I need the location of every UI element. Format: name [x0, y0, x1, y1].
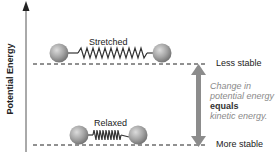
- stretched-left-ball: [50, 44, 69, 63]
- less-stable-label: Less stable: [216, 58, 262, 68]
- y-axis: [23, 1, 30, 152]
- stretched-right-ball: [153, 44, 172, 63]
- note-line-4: kinetic energy.: [210, 111, 267, 121]
- relaxed-left-ball: [70, 126, 89, 145]
- note-line-3-wrap: equals: [210, 101, 239, 111]
- stretched-label: Stretched: [89, 37, 128, 47]
- more-stable-label: More stable: [216, 139, 263, 149]
- relaxed-label: Relaxed: [94, 118, 127, 128]
- note-line-3: equals: [210, 101, 239, 111]
- relaxed-spring: [88, 130, 129, 140]
- note-line-2: potential energy: [210, 91, 274, 101]
- energy-change-double-arrow: [191, 64, 206, 147]
- note-line-1: Change in: [210, 81, 251, 91]
- relaxed-right-ball: [129, 126, 148, 145]
- stretched-spring: [68, 48, 153, 58]
- y-axis-label: Potential Energy: [5, 39, 15, 119]
- axis-arrow-icon: [23, 1, 30, 11]
- energy-diagram: [0, 0, 279, 159]
